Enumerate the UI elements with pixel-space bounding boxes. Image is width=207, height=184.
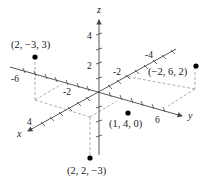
y-axis-label: y	[187, 110, 193, 121]
y-tick-neg2: -2	[63, 87, 71, 97]
x-tick-neg2: -2	[113, 67, 121, 77]
y-tick-6: 6	[155, 115, 160, 125]
point-1-4-0	[125, 110, 130, 115]
z-tick-4: 4	[87, 31, 92, 41]
z-tick-2: 2	[87, 61, 92, 71]
y-tick-neg6: -6	[11, 74, 19, 84]
x-axis-label: x	[16, 128, 22, 139]
x-tick-neg4: -4	[145, 50, 153, 60]
z-axis-label: z	[96, 4, 101, 15]
point-2-neg3-3	[32, 54, 37, 59]
point-label-2-neg3-3: (2, −3, 3)	[11, 39, 51, 51]
3d-coordinate-diagram: z y x 4 2 -6 -2 6 4 -2 -4 (2, −3, 3) (−2…	[0, 0, 207, 184]
point-label-neg2-6-2: (−2, 6, 2)	[148, 66, 188, 78]
point-neg2-6-2	[193, 63, 198, 68]
point-2-2-neg3	[87, 155, 92, 160]
x-tick-4: 4	[27, 117, 32, 127]
point-label-1-4-0: (1, 4, 0)	[109, 118, 143, 130]
point-label-2-2-neg3: (2, 2, −3)	[67, 165, 107, 177]
